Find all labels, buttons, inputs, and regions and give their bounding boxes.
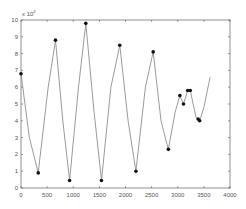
y-tick-label: 1	[15, 168, 19, 174]
y-tick-label: 5	[15, 101, 19, 107]
y-tick-label: 2	[15, 151, 19, 157]
data-marker	[188, 89, 192, 93]
x-tick-label: 2500	[145, 192, 159, 198]
data-marker	[118, 43, 122, 47]
plot-area	[21, 20, 230, 188]
x-tick-label: 2000	[119, 192, 133, 198]
data-marker	[167, 148, 171, 152]
data-marker	[182, 102, 186, 106]
data-marker	[178, 94, 182, 98]
line-chart: 012345678910 050010001500200025003000350…	[0, 0, 246, 209]
data-marker	[19, 72, 23, 76]
y-tick-label: 7	[15, 67, 19, 73]
x-tick-label: 1500	[93, 192, 107, 198]
data-marker	[151, 50, 155, 54]
y-multiplier-label: x 104	[22, 9, 36, 17]
data-marker	[198, 119, 202, 123]
data-marker	[68, 179, 72, 183]
x-tick-label: 3000	[171, 192, 185, 198]
data-marker	[100, 179, 104, 183]
y-tick-label: 3	[15, 135, 19, 141]
y-tick-label: 0	[15, 185, 19, 191]
data-marker	[36, 171, 40, 175]
y-tick-label: 6	[15, 84, 19, 90]
y-tick-label: 9	[15, 34, 19, 40]
y-tick-label: 8	[15, 51, 19, 57]
y-tick-label: 4	[15, 118, 19, 124]
x-tick-label: 0	[19, 192, 23, 198]
data-marker	[134, 169, 138, 173]
x-tick-label: 500	[42, 192, 53, 198]
data-marker	[84, 22, 88, 26]
data-marker	[54, 38, 58, 42]
x-tick-label: 1000	[67, 192, 81, 198]
x-tick-label: 3500	[197, 192, 211, 198]
y-tick-label: 10	[11, 17, 18, 23]
x-tick-label: 4000	[223, 192, 237, 198]
